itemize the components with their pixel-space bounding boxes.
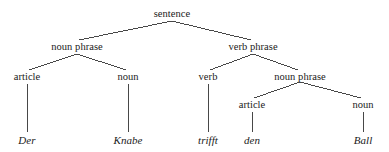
- tree-node-v: verb: [199, 72, 218, 83]
- tree-node-np1: noun phrase: [51, 42, 103, 53]
- tree-node-s: sentence: [154, 9, 191, 20]
- tree-node-np2: noun phrase: [274, 72, 326, 83]
- tree-edge-vp-to-v: [210, 54, 253, 70]
- tree-terminal-w-den: den: [244, 135, 260, 146]
- tree-terminal-w-trifft: trifft: [198, 135, 218, 146]
- tree-edge-np1-to-art1: [29, 54, 77, 70]
- tree-edge-s-to-np1: [79, 21, 172, 40]
- tree-terminal-w-knabe: Knabe: [114, 135, 143, 146]
- syntax-tree-figure: sentencenoun phraseverb phrasearticlenou…: [0, 0, 389, 152]
- tree-node-n1: noun: [117, 72, 138, 83]
- tree-edge-np1-to-n1: [77, 54, 126, 70]
- tree-terminal-w-ball: Ball: [354, 135, 373, 146]
- tree-edge-np2-to-n2: [300, 82, 361, 98]
- tree-edges-layer: [0, 0, 389, 152]
- tree-edge-vp-to-np2: [253, 54, 298, 70]
- tree-terminal-w-der: Der: [18, 135, 35, 146]
- tree-node-art1: article: [14, 72, 41, 83]
- tree-node-vp: verb phrase: [228, 42, 277, 53]
- tree-node-n2: noun: [352, 100, 373, 111]
- tree-node-art2: article: [239, 100, 266, 111]
- tree-edge-np2-to-art2: [254, 82, 300, 98]
- tree-edge-s-to-vp: [172, 21, 251, 40]
